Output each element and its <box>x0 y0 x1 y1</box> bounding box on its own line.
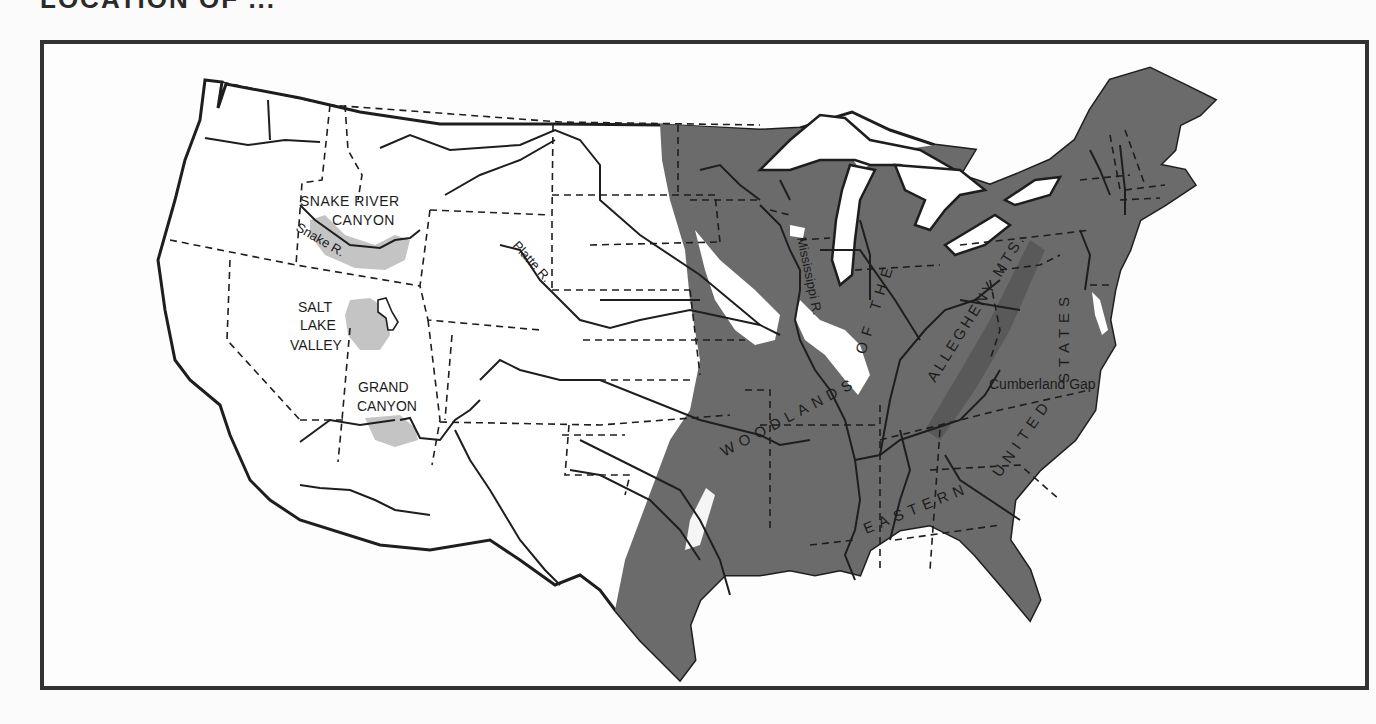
label-salt-lake-3: VALLEY <box>290 337 343 353</box>
label-cumberland-gap: Cumberland Gap <box>989 376 1096 392</box>
label-snake-river-canyon-2: CANYON <box>332 212 395 228</box>
us-map: SNAKE RIVER CANYON Snake R. SALT LAKE VA… <box>0 0 1376 724</box>
label-states: STATES <box>1055 291 1072 383</box>
label-grand-canyon-2: CANYON <box>357 398 417 414</box>
label-salt-lake-1: SALT <box>298 299 332 315</box>
label-salt-lake-2: LAKE <box>300 317 336 333</box>
label-snake-river-canyon-1: SNAKE RIVER <box>300 193 400 209</box>
label-grand-canyon-1: GRAND <box>358 379 409 395</box>
